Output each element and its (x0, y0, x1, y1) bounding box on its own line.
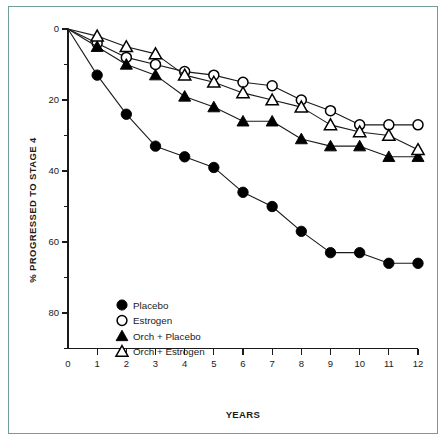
legend-item-orch-estrogen: Orch + Estrogen (116, 346, 205, 357)
y-tick-label: 80 (48, 307, 59, 318)
data-point-filled-triangle (149, 69, 161, 80)
x-tick-label: 1 (95, 358, 100, 369)
legend-label: Placebo (133, 300, 169, 311)
y-tick-label: 60 (48, 236, 59, 247)
x-tick-label: 4 (182, 358, 187, 369)
data-point-filled-triangle (179, 91, 191, 102)
legend-label: Orch + Placebo (133, 331, 201, 342)
legend-label: Estrogen (133, 315, 172, 326)
data-point-open-circle (151, 60, 161, 70)
plot-area: 020406080 0123456789101112 % PROGRESSED … (0, 0, 446, 447)
x-tick-label: 3 (153, 358, 158, 369)
data-point-open-triangle (412, 144, 424, 155)
y-tick-label: 20 (48, 94, 59, 105)
x-tick-label: 0 (65, 358, 70, 369)
data-point-filled-circle (296, 226, 306, 236)
series-layer (68, 29, 424, 268)
data-point-filled-circle (325, 247, 335, 257)
data-point-open-circle (326, 106, 336, 116)
data-point-filled-triangle (208, 101, 220, 112)
x-tick-label: 12 (413, 358, 424, 369)
y-tick-label: 40 (48, 165, 59, 176)
x-tick-label: 5 (211, 358, 216, 369)
data-point-filled-triangle (237, 115, 249, 126)
legend-label: Orch + Estrogen (133, 346, 205, 357)
data-point-filled-triangle (383, 151, 395, 162)
data-point-open-triangle (324, 119, 336, 130)
series-placebo (68, 29, 423, 268)
series-line (68, 29, 418, 263)
data-point-filled-triangle (266, 115, 278, 126)
data-point-filled-circle (354, 247, 364, 257)
x-tick-label: 2 (124, 358, 129, 369)
x-tick-label: 7 (270, 358, 275, 369)
x-tick-label: 9 (328, 358, 333, 369)
data-point-filled-triangle (354, 140, 366, 151)
x-tick-label: 10 (354, 358, 365, 369)
legend-item-estrogen: Estrogen (117, 315, 172, 326)
data-point-filled-triangle (295, 133, 307, 144)
data-point-filled-circle (179, 152, 189, 162)
data-point-filled-circle (121, 109, 131, 119)
y-axis-title: % PROGRESSED TO STAGE 4 (27, 137, 38, 283)
legend-item-placebo: Placebo (117, 300, 169, 311)
data-point-open-triangle (120, 41, 132, 52)
figure-container: 020406080 0123456789101112 % PROGRESSED … (0, 0, 446, 447)
x-tick-label: 6 (240, 358, 245, 369)
series-orch-estrogen (68, 29, 424, 155)
data-point-filled-circle (209, 162, 219, 172)
data-point-filled-circle (413, 258, 423, 268)
legend-item-orch-placebo: Orch + Placebo (116, 330, 201, 341)
data-point-filled-triangle (116, 330, 128, 340)
chart-svg: 020406080 0123456789101112 % PROGRESSED … (0, 0, 446, 447)
data-point-open-triangle (237, 87, 249, 98)
data-point-open-circle (267, 81, 277, 91)
data-point-open-circle (117, 316, 127, 326)
data-point-filled-circle (150, 141, 160, 151)
data-point-filled-circle (267, 201, 277, 211)
data-point-filled-circle (117, 300, 127, 310)
y-tick-label: 0 (54, 23, 59, 34)
x-axis-title: YEARS (226, 409, 261, 420)
x-tick-label: 11 (384, 358, 394, 369)
y-axis-ticks: 020406080 (48, 23, 68, 348)
data-point-open-circle (413, 120, 423, 130)
data-point-filled-circle (384, 258, 394, 268)
x-tick-label: 8 (299, 358, 304, 369)
data-point-filled-circle (238, 187, 248, 197)
data-point-filled-circle (92, 70, 102, 80)
